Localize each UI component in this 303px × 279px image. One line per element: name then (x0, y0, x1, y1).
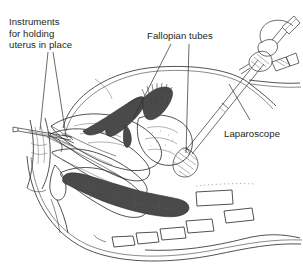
adnexa-fold-1 (62, 142, 112, 165)
laparoscope-eyepiece (282, 16, 300, 34)
uterus-shade-3 (88, 142, 125, 146)
fallopian-tube-left-tail (123, 125, 131, 147)
laparoscope-joint (258, 40, 278, 57)
vertebra-3 (186, 219, 214, 233)
sacral-edge (94, 235, 106, 242)
leader-laparoscope (229, 84, 250, 120)
perineum-line (27, 188, 46, 192)
vertebra-1 (196, 190, 233, 206)
abdominal-wall-group (63, 66, 301, 131)
laparoscope-cable-arm (260, 20, 293, 43)
ovary-group (137, 115, 192, 165)
vagina-lumen-2 (41, 126, 44, 163)
abdominal-wall-right-inner (248, 87, 273, 109)
leader-instruments-1 (40, 52, 48, 130)
instruments-label-line1: Instruments (9, 16, 60, 27)
label-fallopian-tubes: Fallopian tubes (147, 30, 213, 42)
laparoscope-neck-b (277, 32, 287, 44)
ovary-shade-2 (145, 138, 177, 144)
ovary-shade-1 (147, 127, 178, 133)
label-laparoscope: Laparoscope (224, 128, 280, 140)
instruments-label-line2: for holding (9, 28, 54, 39)
label-instruments-for-holding-uterus: Instruments for holding uterus in place (9, 16, 72, 51)
vertebra-2 (224, 208, 254, 223)
laparoscope-shaft-mark2 (219, 107, 225, 112)
ovary-outline (137, 115, 192, 165)
peritoneum-right-sweep-2 (250, 84, 301, 87)
vertebra-4 (160, 227, 186, 240)
manipulator-handle (13, 127, 18, 132)
vertebra-5 (136, 232, 159, 244)
fallopian-tube-left (83, 97, 145, 136)
peritoneum-right-sweep (249, 80, 300, 83)
laparoscope-shaft-mark (222, 103, 228, 108)
vagina-group (27, 118, 50, 192)
leader-fallopian-2 (186, 44, 189, 153)
laparoscope-shaft-b (192, 64, 264, 154)
instruments-label-line3: uterus in place (9, 39, 72, 50)
uterus-cavity (64, 133, 116, 156)
vertebra-6 (112, 236, 135, 247)
vertebrae-dotted-guide (196, 184, 256, 186)
forceps-jaw-outer (173, 148, 198, 177)
laparoscope-neck-a (272, 28, 282, 40)
fallopian-tube-right (143, 87, 173, 120)
abdominal-wall-right (250, 84, 276, 106)
